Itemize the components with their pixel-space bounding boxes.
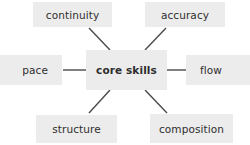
connector-core-to-structure [89, 90, 110, 113]
mind-map-diagram: continuity accuracy pace core skills flo… [0, 0, 250, 145]
node-core-skills-label: core skills [96, 64, 157, 76]
node-accuracy[interactable]: accuracy [145, 2, 225, 27]
connector-core-to-accuracy [145, 28, 166, 50]
connector-core-to-composition [145, 90, 167, 113]
node-continuity-label: continuity [46, 9, 99, 21]
node-flow-label: flow [200, 64, 222, 76]
node-pace[interactable]: pace [0, 55, 62, 85]
node-pace-label: pace [22, 64, 48, 76]
node-accuracy-label: accuracy [161, 9, 209, 21]
node-structure[interactable]: structure [36, 115, 117, 143]
node-structure-label: structure [52, 123, 101, 135]
node-flow[interactable]: flow [186, 55, 250, 85]
node-core-skills[interactable]: core skills [86, 50, 167, 90]
node-continuity[interactable]: continuity [33, 2, 112, 27]
node-composition[interactable]: composition [150, 114, 233, 143]
node-composition-label: composition [159, 123, 224, 135]
connector-core-to-continuity [89, 28, 110, 50]
